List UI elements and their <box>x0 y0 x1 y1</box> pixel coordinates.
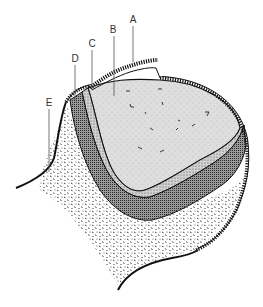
label-b: B <box>110 24 117 35</box>
label-e: E <box>46 97 53 108</box>
label-d: D <box>71 53 78 64</box>
label-a-group: A <box>130 14 137 62</box>
label-a: A <box>130 14 137 25</box>
cross-section-diagram: A B C D E <box>0 0 263 307</box>
label-c: C <box>88 38 95 49</box>
